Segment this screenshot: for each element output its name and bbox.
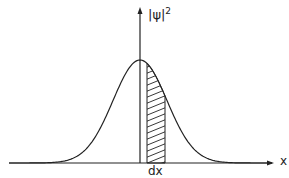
strip-label: dx [148, 164, 163, 178]
y-axis-arrowhead-icon [138, 7, 143, 14]
gaussian-diagram [0, 0, 289, 178]
psi-label: |ψ| [148, 7, 165, 22]
y-axis-label: |ψ|2 [148, 6, 171, 22]
x-axis-label: x [280, 154, 287, 168]
exponent-label: 2 [165, 6, 171, 16]
hatched-strip [145, 41, 167, 178]
